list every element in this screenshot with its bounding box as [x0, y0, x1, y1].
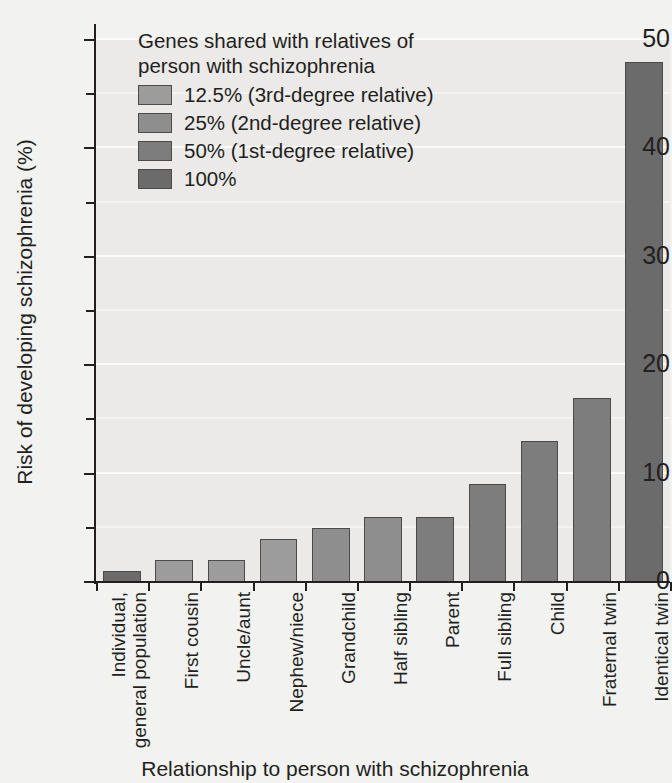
x-tick — [148, 582, 150, 591]
y-tick-label: 0 — [594, 568, 670, 593]
x-axis-title: Relationship to person with schizophreni… — [0, 757, 670, 781]
x-tick — [566, 582, 568, 591]
x-tick-label-line: general population — [129, 592, 150, 748]
x-tick-label-line: Individual, — [108, 592, 129, 678]
bar — [155, 560, 193, 582]
bar — [312, 528, 350, 582]
y-tick-label: 30 — [594, 243, 670, 268]
legend-swatch — [138, 169, 172, 189]
bar — [416, 517, 454, 582]
x-tick — [200, 582, 202, 591]
x-tick — [357, 582, 359, 591]
x-tick — [618, 582, 620, 591]
gridline-minor — [96, 309, 670, 311]
x-tick-label-line: Nephew/niece — [286, 592, 307, 712]
y-axis-line — [94, 24, 96, 584]
x-tick — [409, 582, 411, 591]
y-tick-major — [84, 364, 95, 366]
x-tick-label-line: Half sibling — [390, 592, 411, 685]
y-tick-major — [84, 473, 95, 475]
y-axis-title: Risk of developing schizophrenia (%) — [13, 32, 37, 592]
y-tick-major — [84, 147, 95, 149]
legend-swatch — [138, 85, 172, 105]
x-tick-label: Child — [547, 592, 568, 635]
bar — [469, 484, 507, 582]
x-tick — [253, 582, 255, 591]
legend-label: 50% (1st-degree relative) — [184, 140, 414, 162]
x-tick — [513, 582, 515, 591]
x-tick-label-line: Grandchild — [338, 592, 359, 684]
x-tick-label: Fraternal twin — [599, 592, 620, 707]
x-tick — [96, 582, 98, 591]
legend-item: 50% (1st-degree relative) — [138, 140, 468, 162]
bar — [521, 441, 559, 582]
legend-label: 25% (2nd-degree relative) — [184, 112, 421, 134]
x-tick-label-line: Fraternal twin — [599, 592, 620, 707]
y-tick-label: 40 — [594, 134, 670, 159]
y-tick-minor — [86, 202, 95, 204]
x-tick — [461, 582, 463, 591]
x-tick-label: Identical twin — [651, 592, 672, 702]
y-tick-label: 20 — [594, 351, 670, 376]
x-tick-label: Grandchild — [338, 592, 359, 684]
legend-swatch — [138, 113, 172, 133]
x-tick-label: Nephew/niece — [286, 592, 307, 712]
legend-item: 25% (2nd-degree relative) — [138, 112, 468, 134]
gridline-major — [96, 363, 670, 365]
bar — [208, 560, 246, 582]
x-tick-label-line: Identical twin — [651, 592, 672, 702]
x-tick-label: First cousin — [181, 592, 202, 689]
gridline-major — [96, 255, 670, 257]
y-tick-minor — [86, 93, 95, 95]
y-tick-major — [84, 256, 95, 258]
y-tick-major — [84, 581, 95, 583]
y-tick-label: 50 — [594, 26, 670, 51]
legend-label: 12.5% (3rd-degree relative) — [184, 84, 434, 106]
x-tick-label: Half sibling — [390, 592, 411, 685]
x-tick-label: Individual,general population — [108, 592, 150, 748]
bar — [364, 517, 402, 582]
x-tick-label-line: Parent — [442, 592, 463, 648]
y-tick-major — [84, 39, 95, 41]
x-tick-label: Uncle/aunt — [233, 592, 254, 683]
legend: Genes shared with relatives of person wi… — [138, 28, 468, 190]
x-tick — [305, 582, 307, 591]
x-axis-line — [94, 581, 670, 583]
legend-swatch — [138, 141, 172, 161]
x-tick-label-line: Full sibling — [494, 592, 515, 682]
y-tick-label: 10 — [594, 460, 670, 485]
legend-item: 100% — [138, 168, 468, 190]
legend-items: 12.5% (3rd-degree relative)25% (2nd-degr… — [138, 84, 468, 190]
bar — [260, 539, 298, 582]
x-tick-label: Full sibling — [494, 592, 515, 682]
x-axis-tick-labels: Individual,general populationFirst cousi… — [96, 592, 670, 752]
y-tick-minor — [86, 418, 95, 420]
x-tick-label-line: Uncle/aunt — [233, 592, 254, 683]
gridline-minor — [96, 201, 670, 203]
bar — [573, 398, 611, 582]
x-tick-label-line: Child — [547, 592, 568, 635]
legend-label: 100% — [184, 168, 236, 190]
legend-item: 12.5% (3rd-degree relative) — [138, 84, 468, 106]
y-tick-minor — [86, 310, 95, 312]
y-tick-minor — [86, 527, 95, 529]
x-tick-label: Parent — [442, 592, 463, 648]
x-tick-label-line: First cousin — [181, 592, 202, 689]
legend-title: Genes shared with relatives of person wi… — [138, 28, 468, 78]
